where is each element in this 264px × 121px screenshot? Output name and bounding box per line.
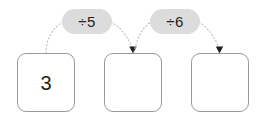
number-box-3[interactable] (191, 53, 249, 112)
operation-pill-2: ÷6 (150, 9, 200, 34)
number-box-1-value: 3 (40, 73, 51, 93)
number-box-2[interactable] (104, 53, 162, 112)
connector-box1-to-op1 (46, 22, 63, 53)
connector-box2-to-op2 (134, 22, 151, 52)
connector-op2-to-box3 (199, 22, 219, 48)
operation-pill-2-label: ÷6 (166, 14, 184, 29)
operation-pill-1: ÷5 (62, 9, 112, 34)
operation-pill-1-label: ÷5 (78, 14, 96, 29)
function-machine-diagram: 3 ÷5 ÷6 (0, 0, 264, 121)
number-box-1[interactable]: 3 (17, 53, 75, 112)
connector-op1-to-box2 (111, 22, 133, 48)
